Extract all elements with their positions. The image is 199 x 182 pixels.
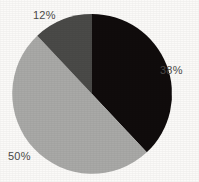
pie-slices	[12, 14, 172, 174]
pie-label-38-percent: 38%	[160, 64, 183, 76]
pie-label-12-percent: 12%	[33, 9, 56, 21]
pie-chart-figure: 38% 50% 12%	[0, 0, 199, 182]
pie-label-50-percent: 50%	[8, 150, 31, 162]
